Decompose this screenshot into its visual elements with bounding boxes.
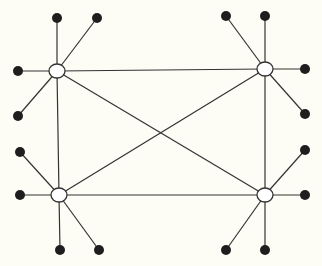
leaf-node	[52, 13, 62, 23]
leaf-node	[300, 190, 310, 200]
leaf-node	[300, 109, 310, 119]
leaf-edge	[57, 18, 97, 71]
leaf-node	[221, 245, 231, 255]
hub-edges	[57, 69, 265, 195]
hub-top-left	[49, 64, 65, 78]
leaf-edge	[59, 195, 99, 250]
leaf-node	[15, 147, 25, 157]
leaf-node	[300, 64, 310, 74]
leaf-node	[15, 190, 25, 200]
leaf-node	[221, 11, 231, 21]
leaf-node	[13, 66, 23, 76]
leaf-node	[94, 245, 104, 255]
leaf-edge	[226, 195, 265, 250]
leaf-edge	[265, 150, 305, 195]
hub-bottom-left	[51, 188, 67, 202]
hub-bottom-right	[257, 188, 273, 202]
leaf-edge	[226, 16, 265, 69]
leaf-node	[92, 13, 102, 23]
hub-edge	[57, 71, 59, 195]
leaf-edge	[18, 71, 57, 116]
leaf-node	[260, 245, 270, 255]
leaf-edge	[20, 152, 59, 195]
leaf-edge	[59, 195, 60, 250]
hub-top-right	[257, 62, 273, 76]
hub-edge	[57, 69, 265, 71]
network-diagram	[0, 0, 322, 266]
leaf-node	[260, 11, 270, 21]
leaf-edge	[265, 69, 305, 114]
leaf-node	[13, 111, 23, 121]
leaf-node	[300, 145, 310, 155]
leaf-node	[55, 245, 65, 255]
